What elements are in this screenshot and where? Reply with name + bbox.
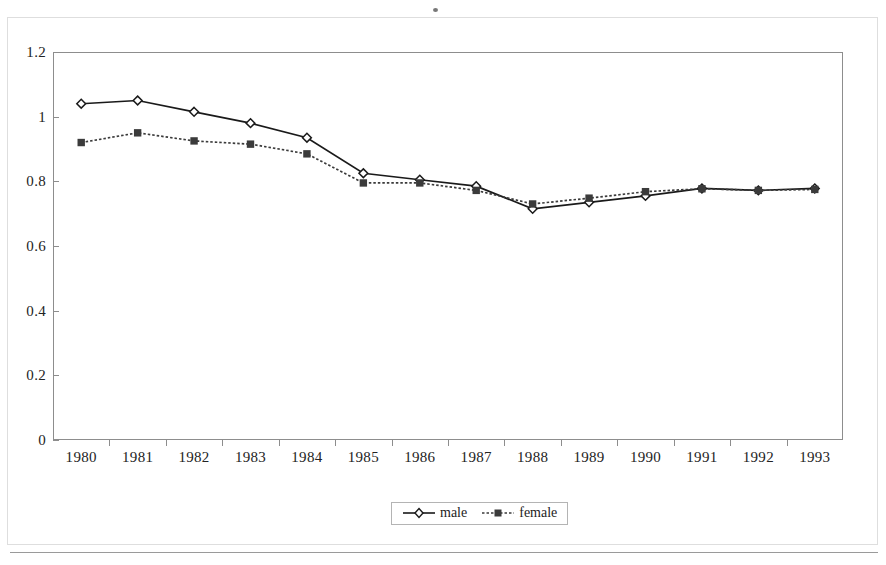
legend-entry-female: female [481, 506, 557, 520]
y-axis-tick-label: 1.2 [26, 44, 46, 61]
legend-label-male: male [440, 506, 467, 520]
x-axis-tick-label: 1992 [743, 449, 774, 466]
data-point-marker-square [811, 186, 818, 193]
y-axis-tick-label: 0.8 [26, 173, 46, 190]
data-point-marker-diamond [190, 107, 199, 116]
x-axis-tick-mark [504, 440, 505, 446]
data-point-marker-diamond [133, 96, 142, 105]
x-axis-tick-label: 1986 [404, 449, 435, 466]
x-axis-tick-mark [222, 440, 223, 446]
data-point-marker-square [529, 200, 536, 207]
data-point-marker-square [473, 187, 480, 194]
x-axis-tick-label: 1991 [686, 449, 717, 466]
y-axis-tick-label: 1 [38, 108, 46, 125]
scan-speck [433, 8, 438, 12]
y-axis-tick-mark [53, 440, 59, 441]
data-point-marker-diamond [246, 119, 255, 128]
chart-legend: male female [391, 502, 568, 525]
data-point-marker-square [416, 179, 423, 186]
x-axis-tick-label: 1980 [66, 449, 97, 466]
legend-key-male-diamond-icon [402, 507, 436, 519]
series-line-male [81, 101, 815, 209]
data-point-marker-square [303, 150, 310, 157]
chart-page: 00.20.40.60.811.2 1980198119821983198419… [0, 0, 886, 565]
x-axis-tick-mark [674, 440, 675, 446]
x-axis-tick-label: 1984 [291, 449, 322, 466]
bottom-rule [10, 552, 878, 553]
data-point-marker-diamond [359, 169, 368, 178]
series-plot-layer [53, 52, 843, 440]
series-male [77, 96, 819, 213]
data-point-marker-diamond [77, 99, 86, 108]
x-axis-tick-label: 1993 [799, 449, 830, 466]
x-axis-tick-mark [787, 440, 788, 446]
data-point-marker-square [134, 129, 141, 136]
data-point-marker-square [360, 179, 367, 186]
x-axis-tick-label: 1985 [348, 449, 379, 466]
data-point-marker-square [78, 139, 85, 146]
x-axis-tick-label: 1983 [235, 449, 266, 466]
x-axis-tick-mark [392, 440, 393, 446]
x-axis-tick-mark [561, 440, 562, 446]
data-point-marker-square [585, 194, 592, 201]
line-chart-figure: 00.20.40.60.811.2 1980198119821983198419… [10, 30, 870, 520]
data-point-marker-diamond [303, 133, 312, 142]
legend-label-female: female [519, 506, 557, 520]
y-axis-tick-label: 0.4 [26, 302, 46, 319]
x-axis-tick-mark [109, 440, 110, 446]
data-point-marker-square [698, 185, 705, 192]
data-point-marker-square [755, 187, 762, 194]
y-axis-tick-label: 0.6 [26, 238, 46, 255]
data-point-marker-square [190, 137, 197, 144]
y-axis-tick-label: 0.2 [26, 367, 46, 384]
y-axis-tick-label: 0 [38, 432, 46, 449]
data-point-marker-square [247, 140, 254, 147]
x-axis-tick-label: 1982 [178, 449, 209, 466]
x-axis-tick-label: 1987 [461, 449, 492, 466]
x-axis-tick-label: 1988 [517, 449, 548, 466]
x-axis-tick-mark [448, 440, 449, 446]
y-axis-labels: 00.20.40.60.811.2 [10, 52, 46, 440]
data-point-marker-square [642, 188, 649, 195]
x-axis-tick-label: 1990 [630, 449, 661, 466]
x-axis-tick-label: 1989 [573, 449, 604, 466]
series-female [78, 129, 819, 208]
x-axis-tick-label: 1981 [122, 449, 153, 466]
legend-key-female-square-icon [481, 507, 515, 519]
x-axis-tick-mark [166, 440, 167, 446]
x-axis-tick-mark [617, 440, 618, 446]
legend-entry-male: male [402, 506, 467, 520]
x-axis-tick-mark [335, 440, 336, 446]
x-axis-tick-mark [730, 440, 731, 446]
x-axis-tick-mark [279, 440, 280, 446]
